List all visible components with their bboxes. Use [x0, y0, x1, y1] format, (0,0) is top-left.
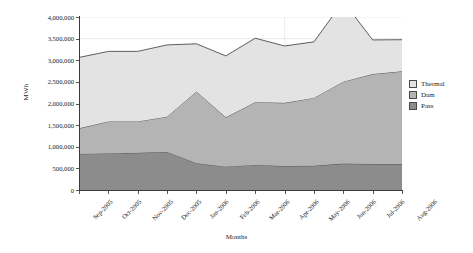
x-axis-tick-label: Jul-2006: [384, 198, 405, 219]
legend-item-thermal[interactable]: Thermal: [409, 79, 471, 89]
x-axis-tick-label: Feb-2006: [238, 198, 261, 221]
legend-swatch-icon: [409, 91, 417, 99]
legend-label: Dam: [421, 91, 435, 99]
legend-label: Thermal: [421, 80, 445, 88]
x-axis-tick-labels: Sep-2005Oct-2005Nov-2005Dec-2005Jan-2006…: [0, 194, 473, 234]
area-chart: MWh 4,000,0003,500,0003,000,0002,500,000…: [0, 0, 473, 253]
y-axis-tick-label: 4,000,000: [18, 14, 74, 21]
x-axis-title: Months: [0, 233, 473, 241]
legend-swatch-icon: [409, 80, 417, 88]
x-axis-tick-label: Jun-2006: [355, 198, 377, 220]
plot-area: [79, 17, 402, 190]
x-axis-tick-label: Dec-2005: [180, 198, 203, 221]
y-axis-tick-label: 1,500,000: [18, 122, 74, 129]
y-axis-tick-labels: 4,000,0003,500,0003,000,0002,500,0002,00…: [18, 13, 74, 190]
legend-item-dam[interactable]: Dam: [409, 90, 471, 100]
legend-swatch-icon: [409, 102, 417, 110]
x-axis-tick-label: Aug-2006: [415, 198, 439, 222]
x-axis-tick-label: Sep-2005: [91, 198, 114, 221]
y-axis-tick-label: 3,000,000: [18, 57, 74, 64]
y-axis-tick-label: 0: [18, 187, 74, 194]
x-axis-tick-label: Apr-2006: [297, 198, 320, 221]
x-axis-tick-label: Oct-2005: [121, 198, 143, 220]
y-axis-tick-label: 2,500,000: [18, 78, 74, 85]
stacked-area-svg: [79, 17, 402, 190]
x-axis-tick-label: May-2006: [327, 198, 351, 222]
y-axis-tick-label: 1,000,000: [18, 143, 74, 150]
x-axis-tick-label: Nov-2005: [150, 198, 174, 222]
y-axis-tick-label: 2,000,000: [18, 100, 74, 107]
legend-label: Pass: [421, 102, 433, 110]
y-axis-tick-label: 3,500,000: [18, 35, 74, 42]
y-axis-line: [79, 16, 80, 191]
x-axis-tick-label: Jan-2006: [208, 198, 230, 220]
y-axis-tick-label: 500,000: [18, 165, 74, 172]
chart-legend: ThermalDamPass: [409, 79, 471, 112]
x-axis-tick-label: Mar-2006: [268, 198, 291, 221]
legend-item-pass[interactable]: Pass: [409, 101, 471, 111]
